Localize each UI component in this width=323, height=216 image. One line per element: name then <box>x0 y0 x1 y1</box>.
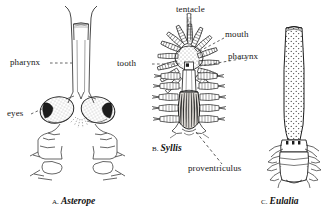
label-tentacle: tentacle <box>176 4 205 14</box>
asterope-eye-right <box>78 93 117 126</box>
caption-c-letter: C. <box>261 198 267 206</box>
leader-proventriculus <box>196 132 222 164</box>
label-mouth: mouth <box>225 29 249 39</box>
caption-b-letter: B. <box>152 145 158 153</box>
caption-b-genus: Syllis <box>161 143 182 153</box>
asterope-eye-left <box>37 93 76 126</box>
caption-c-genus: Eulalia <box>270 196 299 206</box>
figure-plate: pharynx eyes tentacle mouth tooth pharyn… <box>0 0 323 216</box>
caption-a: A. Asterope <box>52 196 95 206</box>
plate-artwork <box>0 0 323 216</box>
caption-c: C. Eulalia <box>261 196 299 206</box>
label-tooth: tooth <box>117 58 136 68</box>
label-pharynx-left: pharynx <box>10 57 40 67</box>
eulalia-drawing <box>267 27 321 189</box>
label-proventriculus: proventriculus <box>188 163 241 173</box>
label-pharynx-right: pharynx <box>228 51 258 61</box>
caption-a-genus: Asterope <box>61 196 95 206</box>
caption-b: B. Syllis <box>152 143 182 153</box>
asterope-drawing <box>30 6 125 180</box>
caption-a-letter: A. <box>52 198 59 206</box>
label-eyes: eyes <box>7 108 23 118</box>
